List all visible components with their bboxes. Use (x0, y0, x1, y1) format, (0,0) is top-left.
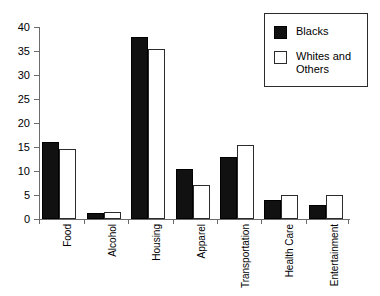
bar-group (42, 27, 76, 219)
bar-blacks (264, 200, 281, 219)
x-axis-label-health-care: Health Care (285, 224, 295, 277)
x-axis-tick (128, 219, 129, 224)
y-axis-tick-label: 35 (0, 46, 30, 57)
x-axis-line (39, 219, 350, 220)
x-axis-tick (261, 219, 262, 224)
legend-swatch-blacks-icon (274, 26, 287, 39)
bar-whites-and-others (148, 49, 165, 219)
bar-whites-and-others (59, 149, 76, 219)
x-axis-label-food: Food (63, 224, 73, 247)
bar-blacks (176, 169, 193, 219)
bar-blacks (42, 142, 59, 219)
x-axis-tick (173, 219, 174, 224)
y-axis-tick-label: 20 (0, 118, 30, 129)
x-axis-label-alcohol: Alcohol (108, 224, 118, 257)
bar-whites-and-others (281, 195, 298, 219)
bar-blacks (131, 37, 148, 219)
y-axis-tick-label: 5 (0, 190, 30, 201)
legend-item-whites-and-others: Whites and Others (274, 50, 358, 76)
y-axis-tick-label: 30 (0, 70, 30, 81)
x-axis-tick (348, 219, 349, 224)
bar-whites-and-others (326, 195, 343, 219)
bar-whites-and-others (237, 145, 254, 219)
bar-group (220, 27, 254, 219)
x-axis-tick (84, 219, 85, 224)
y-axis-tick-label: 0 (0, 214, 30, 225)
x-axis-label-entertainment: Entertainment (330, 224, 340, 286)
bar-chart: 0510152025303540 FoodAlcoholHousingAppar… (0, 0, 380, 296)
bar-blacks (87, 213, 104, 219)
x-axis-tick (39, 219, 40, 224)
x-axis-label-transportation: Transportation (241, 224, 251, 288)
legend-item-blacks: Blacks (274, 25, 328, 39)
x-axis-tick (306, 219, 307, 224)
bar-group (87, 27, 121, 219)
bar-whites-and-others (104, 212, 121, 219)
bar-blacks (309, 205, 326, 219)
bar-group (176, 27, 210, 219)
y-axis-tick-label: 25 (0, 94, 30, 105)
chart-legend: Blacks Whites and Others (264, 13, 368, 87)
x-axis-label-apparel: Apparel (197, 224, 207, 258)
y-axis-tick-label: 40 (0, 22, 30, 33)
x-axis-label-housing: Housing (152, 224, 162, 261)
legend-swatch-whites-and-others-icon (274, 51, 287, 64)
bar-whites-and-others (193, 185, 210, 219)
x-axis-tick (217, 219, 218, 224)
legend-label-whites-and-others: Whites and Others (296, 50, 358, 76)
bar-blacks (220, 157, 237, 219)
bar-group (131, 27, 165, 219)
y-axis-tick-label: 10 (0, 166, 30, 177)
y-axis-tick-label: 15 (0, 142, 30, 153)
legend-label-blacks: Blacks (296, 25, 328, 38)
